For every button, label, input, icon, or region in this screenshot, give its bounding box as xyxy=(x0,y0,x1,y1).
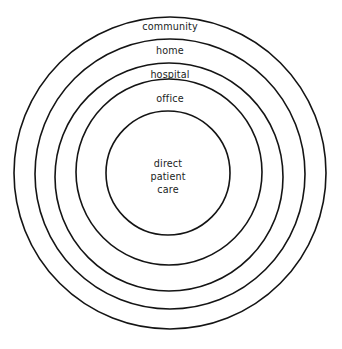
ring-group-core[interactable]: direct patient care xyxy=(106,111,230,235)
core-label-line1: direct xyxy=(154,158,182,169)
core-label-line2: patient xyxy=(150,171,185,182)
ring-label-office: office xyxy=(156,93,183,104)
concentric-circles-diagram: community home hospital office direct pa… xyxy=(0,0,342,349)
ring-label-home: home xyxy=(156,45,184,56)
ring-label-community: community xyxy=(142,21,198,32)
diagram-canvas: community home hospital office direct pa… xyxy=(0,0,342,349)
core-label-line3: care xyxy=(157,184,178,195)
